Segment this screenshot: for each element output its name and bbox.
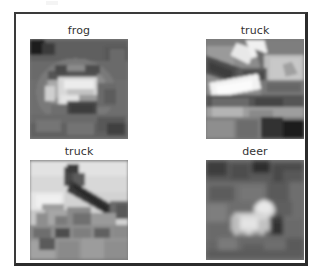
grid-cell-frog[interactable]: frog [28, 24, 130, 139]
grid-cell-truck-top[interactable]: truck [204, 24, 306, 139]
truck-thumbnail[interactable] [30, 160, 128, 260]
deer-thumbnail[interactable] [206, 160, 304, 260]
cell-label: truck [204, 24, 306, 37]
figure-frame: frog [14, 12, 308, 266]
grid-cell-deer[interactable]: deer [204, 145, 306, 260]
cell-label: frog [28, 24, 130, 37]
top-edge-artifact [46, 1, 58, 5]
cell-label: deer [204, 145, 306, 158]
cell-label: truck [28, 145, 130, 158]
frog-thumbnail[interactable] [30, 39, 128, 139]
grid-cell-truck-bottom[interactable]: truck [28, 145, 130, 260]
truck-thumbnail[interactable] [206, 39, 304, 139]
image-grid: frog [16, 14, 305, 263]
